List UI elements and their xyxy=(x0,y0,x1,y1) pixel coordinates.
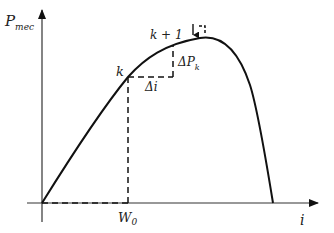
delta-i-label: Δi xyxy=(144,80,158,94)
point-k-label: k xyxy=(116,64,124,79)
pmec-curve-diagram: Pmec i k k + 1 Δi ΔPk W0 xyxy=(0,0,334,233)
x-axis-label: i xyxy=(300,212,304,228)
point-k1-label: k + 1 xyxy=(150,28,183,42)
y-axis-label: Pmec xyxy=(4,12,34,32)
dashed-guides xyxy=(42,26,205,203)
power-curve xyxy=(42,38,273,203)
delta-p-label: ΔPk xyxy=(177,55,200,72)
w0-label: W0 xyxy=(118,210,137,227)
